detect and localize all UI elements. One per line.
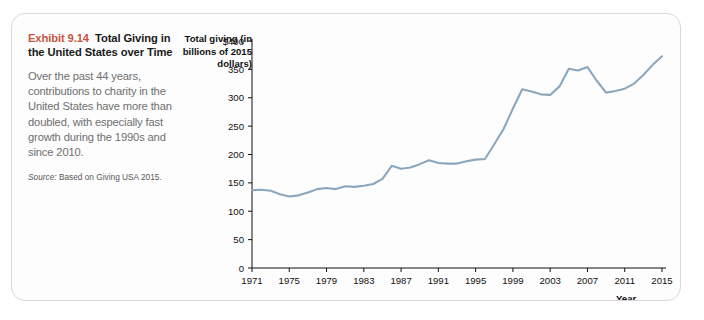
x-tick-label: 1999 [502,275,523,286]
x-tick-label: 1979 [316,275,337,286]
y-tick-label: 200 [228,149,244,160]
x-tick-label: 1983 [353,275,374,286]
x-tick-label: 2003 [540,275,561,286]
y-tick-label: 350 [228,64,244,75]
y-tick-label: 150 [228,177,244,188]
x-tick-label: 2015 [651,275,672,286]
x-tick-label: 2007 [577,275,598,286]
y-tick-label: 100 [228,206,244,217]
line-chart: $400350300250200150100500 19711975197919… [12,14,681,301]
y-tick-label: 300 [228,92,244,103]
y-tick-label: 50 [233,234,244,245]
y-axis-ticks: $400350300250200150100500 [223,36,252,274]
exhibit-card: Exhibit 9.14 Total Giving in the United … [11,13,681,301]
total-giving-line [252,56,662,196]
x-axis-ticks: 1971197519791983198719911995199920032007… [241,268,672,286]
y-tick-label: 250 [228,121,244,132]
x-tick-label: 1975 [279,275,300,286]
x-tick-label: 1987 [390,275,411,286]
x-tick-label: 2011 [614,275,635,286]
x-tick-label: 1995 [465,275,486,286]
y-tick-label: 0 [239,263,244,274]
x-tick-label: 1991 [428,275,449,286]
y-tick-label: $400 [223,36,244,47]
x-tick-label: 1971 [241,275,262,286]
